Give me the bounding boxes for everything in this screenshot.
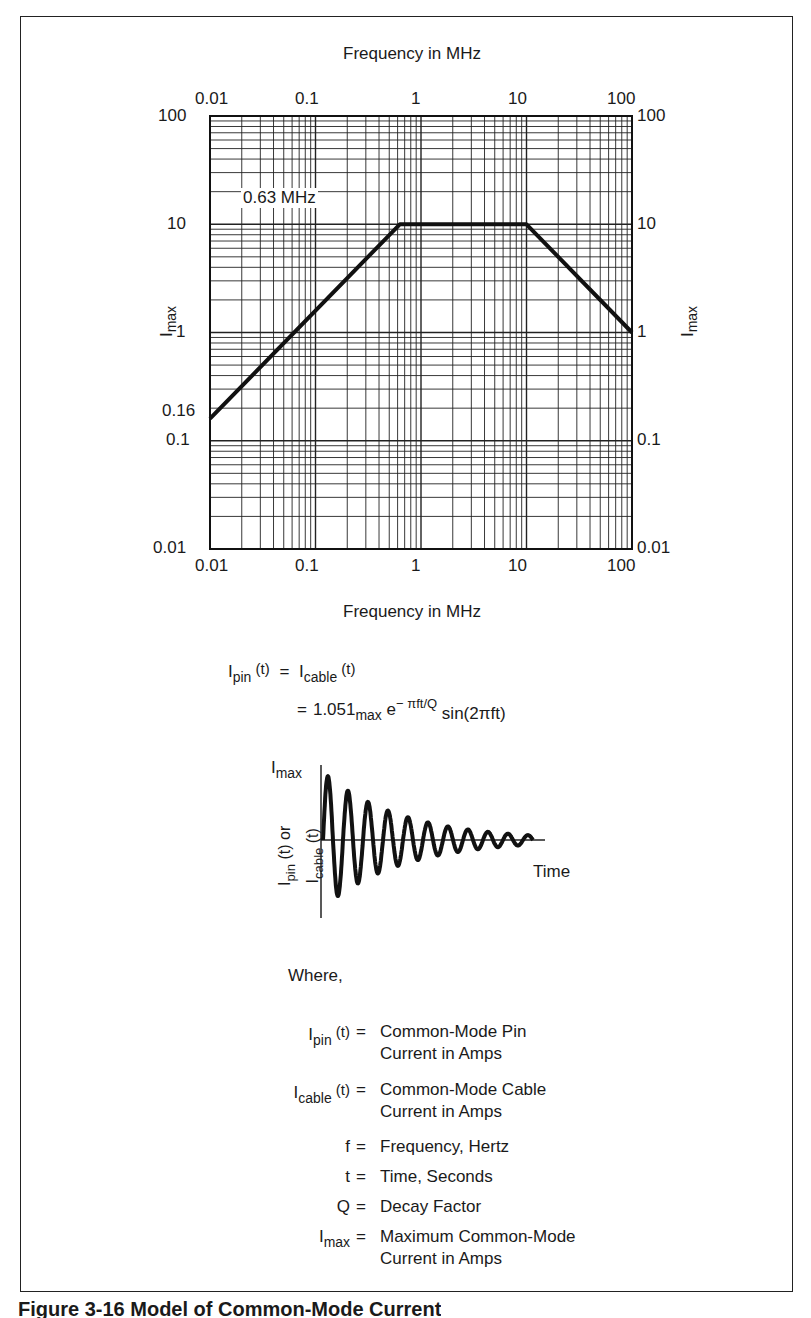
waveform-plot bbox=[0, 0, 811, 960]
figure-caption: Figure 3-16 Model of Common-Mode Current bbox=[18, 1298, 441, 1318]
definitions-heading: Where, bbox=[288, 966, 343, 986]
